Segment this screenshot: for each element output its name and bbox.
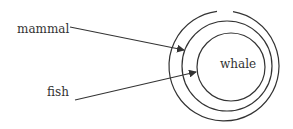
whale-label: whale [220, 57, 256, 71]
euler-diagram: mammal fish whale [0, 0, 293, 129]
fish-label: fish [47, 85, 69, 99]
mammal-arrow [70, 27, 184, 50]
mammal-label: mammal [17, 22, 69, 36]
